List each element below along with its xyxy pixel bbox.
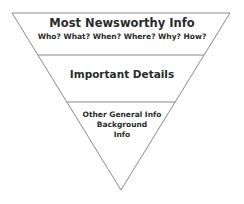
tier-3-line-3: Info <box>0 130 244 139</box>
tier-2-title: Important Details <box>0 68 244 80</box>
tier-1-title: Most Newsworthy Info <box>0 16 244 30</box>
tier-1-subtitle: Who? What? When? Where? Why? How? <box>0 32 244 41</box>
tier-3-line-2: Background <box>0 120 244 129</box>
tier-3-line-1: Other General Info <box>0 110 244 119</box>
inverted-pyramid-shape <box>0 0 244 204</box>
